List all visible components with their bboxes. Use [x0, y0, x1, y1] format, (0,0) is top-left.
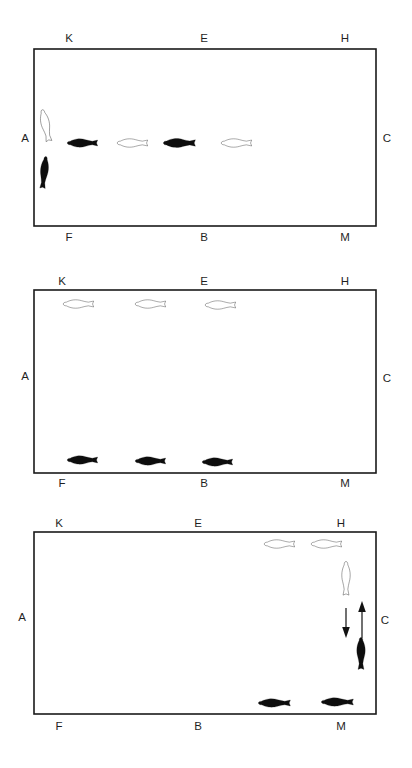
panel-a-fish-light-horizontal-2: [221, 139, 251, 147]
panel-b-fish-light-top-2: [135, 300, 165, 308]
figure-root: KEHACFBMKEHACFBMKEHACFBM: [0, 0, 412, 768]
panel-b-fish-light-top-1: [63, 300, 93, 308]
panel-c-corner-label-h: H: [337, 517, 345, 529]
panel-c-border: [34, 532, 376, 714]
panel-a-corner-label-f: F: [65, 231, 72, 243]
panel-b-fish-dark-bottom-3: [202, 458, 232, 466]
panel-a-fish-light-vertical-upper-left: [38, 109, 53, 142]
panel-c-corner-label-f: F: [55, 720, 62, 732]
panel-b: KEHACFBM: [21, 275, 391, 489]
panel-b-corner-label-k: K: [58, 275, 66, 287]
panel-c: KEHACFBM: [18, 517, 389, 732]
panel-a-fish-dark-vertical-lower-left: [39, 156, 50, 189]
panel-c-corner-label-c: C: [381, 614, 389, 626]
panel-a-corner-label-b: B: [200, 231, 208, 243]
panel-a-corner-label-h: H: [341, 32, 349, 44]
panel-b-corner-label-f: F: [58, 477, 65, 489]
panel-a-corner-label-e: E: [200, 32, 208, 44]
panel-a-fish-light-horizontal-1: [117, 139, 147, 147]
panel-c-fish-dark-vertical: [357, 637, 365, 669]
panel-a-corner-label-m: M: [340, 231, 350, 243]
panel-a-fish-dark-horizontal-1: [67, 139, 97, 147]
panel-c-fish-light-vertical: [342, 562, 350, 596]
panel-b-fish-dark-bottom-1: [67, 456, 97, 464]
panel-b-border: [34, 290, 376, 473]
panel-c-arrow-down-icon: [342, 608, 350, 638]
panel-c-corner-label-b: B: [194, 720, 202, 732]
panel-a-border: [34, 49, 376, 226]
three-panel-figure: KEHACFBMKEHACFBMKEHACFBM: [0, 0, 412, 768]
panel-b-corner-label-a: A: [21, 370, 29, 382]
panel-b-corner-label-h: H: [341, 275, 349, 287]
panel-c-corner-label-e: E: [194, 517, 202, 529]
panel-b-corner-label-b: B: [200, 477, 208, 489]
panel-a-corner-label-a: A: [21, 132, 29, 144]
panel-b-corner-label-m: M: [340, 477, 350, 489]
panel-b-corner-label-e: E: [200, 275, 208, 287]
panel-c-fish-dark-bottom-2: [321, 698, 353, 706]
panel-b-corner-label-c: C: [383, 372, 391, 384]
panel-a-fish-dark-horizontal-2: [163, 139, 195, 148]
panel-c-fish-light-top-1: [264, 540, 294, 548]
panel-c-corner-label-k: K: [55, 517, 63, 529]
panel-c-fish-light-top-2: [311, 540, 341, 548]
panel-a-corner-label-c: C: [383, 132, 391, 144]
panel-b-fish-dark-bottom-2: [135, 457, 165, 465]
panel-c-corner-label-a: A: [18, 611, 26, 623]
panel-c-corner-label-m: M: [336, 720, 346, 732]
panel-c-fish-dark-bottom-1: [258, 699, 290, 707]
panel-a: KEHACFBM: [21, 32, 391, 243]
panel-c-arrow-up-icon: [358, 601, 366, 638]
panel-b-fish-light-top-3: [205, 301, 235, 309]
panel-a-corner-label-k: K: [65, 32, 73, 44]
